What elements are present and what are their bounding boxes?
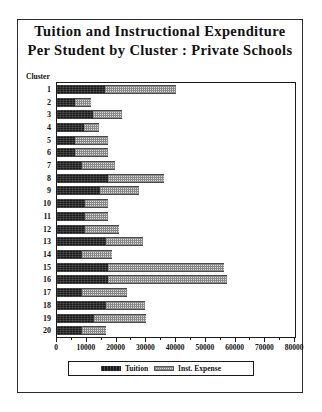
bar-segment-inst-expense bbox=[75, 98, 91, 107]
x-axis-tick-labels: 0100002000030000400005000060000700008000… bbox=[56, 343, 297, 355]
stacked-bar bbox=[57, 237, 295, 246]
bar-segment-inst-expense bbox=[75, 136, 108, 145]
y-tick-label: 14 bbox=[26, 248, 54, 261]
bar-segment-tuition bbox=[57, 123, 84, 132]
bar-segment-inst-expense bbox=[108, 275, 227, 284]
y-tick-label: 17 bbox=[26, 286, 54, 299]
y-tick-label: 9 bbox=[26, 185, 54, 198]
x-axis-ticks bbox=[56, 338, 297, 342]
bar-row bbox=[57, 235, 295, 248]
bar-segment-tuition bbox=[57, 174, 108, 183]
bar-segment-tuition bbox=[57, 136, 75, 145]
y-tick-label: 15 bbox=[26, 261, 54, 274]
bar-segment-tuition bbox=[57, 301, 106, 310]
bar-segment-inst-expense bbox=[85, 225, 119, 234]
bar-segment-inst-expense bbox=[100, 186, 139, 195]
x-tick-label: 10000 bbox=[76, 343, 95, 352]
stacked-bar bbox=[57, 250, 295, 259]
bar-row bbox=[57, 248, 295, 261]
bar-segment-inst-expense bbox=[82, 161, 115, 170]
bar-segment-tuition bbox=[57, 314, 94, 323]
y-tick-label: 19 bbox=[26, 312, 54, 325]
stacked-bar bbox=[57, 161, 295, 170]
stacked-bar bbox=[57, 186, 295, 195]
bar-segment-tuition bbox=[57, 288, 82, 297]
y-axis-caption: Cluster bbox=[26, 72, 50, 81]
y-tick-label: 8 bbox=[26, 172, 54, 185]
stacked-bar bbox=[57, 98, 295, 107]
x-tick-label: 50000 bbox=[195, 343, 214, 352]
legend-swatch-tuition bbox=[101, 366, 121, 371]
bar-row bbox=[57, 299, 295, 312]
bar-row bbox=[57, 121, 295, 134]
legend-swatch-inst-expense bbox=[154, 366, 174, 371]
x-tick-label: 0 bbox=[54, 343, 58, 352]
legend-label-inst-expense: Inst. Expense bbox=[178, 364, 221, 373]
x-tick-label: 60000 bbox=[225, 343, 244, 352]
bar-segment-tuition bbox=[57, 148, 75, 157]
bar-segment-inst-expense bbox=[85, 199, 107, 208]
stacked-bar bbox=[57, 288, 295, 297]
y-tick-label: 4 bbox=[26, 121, 54, 134]
bar-row bbox=[57, 261, 295, 274]
stacked-bar bbox=[57, 225, 295, 234]
bar-row bbox=[57, 185, 295, 198]
bar-row bbox=[57, 210, 295, 223]
bar-segment-tuition bbox=[57, 98, 75, 107]
bar-segment-tuition bbox=[57, 237, 106, 246]
bar-segment-tuition bbox=[57, 212, 85, 221]
x-tick-mark bbox=[264, 338, 265, 342]
chart-legend: Tuition Inst. Expense bbox=[68, 361, 254, 376]
y-tick-label: 18 bbox=[26, 299, 54, 312]
x-tick-mark bbox=[116, 338, 117, 342]
bar-segment-inst-expense bbox=[85, 212, 107, 221]
stacked-bar bbox=[57, 275, 295, 284]
x-tick-label: 70000 bbox=[255, 343, 274, 352]
bar-segment-inst-expense bbox=[106, 237, 143, 246]
stacked-bar bbox=[57, 148, 295, 157]
stacked-bar bbox=[57, 85, 295, 94]
bar-segment-tuition bbox=[57, 85, 105, 94]
stacked-bar bbox=[57, 263, 295, 272]
bar-row bbox=[57, 159, 295, 172]
bar-row bbox=[57, 172, 295, 185]
x-tick-mark bbox=[145, 338, 146, 342]
bar-segment-inst-expense bbox=[94, 314, 146, 323]
bar-rows bbox=[57, 83, 295, 337]
stacked-bar bbox=[57, 174, 295, 183]
bar-row bbox=[57, 96, 295, 109]
y-tick-label: 12 bbox=[26, 223, 54, 236]
stacked-bar bbox=[57, 314, 295, 323]
bar-segment-inst-expense bbox=[108, 174, 165, 183]
bar-row bbox=[57, 134, 295, 147]
stacked-bar bbox=[57, 136, 295, 145]
bar-segment-tuition bbox=[57, 326, 82, 335]
y-tick-label: 1 bbox=[26, 83, 54, 96]
y-tick-label: 5 bbox=[26, 134, 54, 147]
bar-segment-tuition bbox=[57, 110, 93, 119]
stacked-bar bbox=[57, 123, 295, 132]
chart-title-line-2: Per Student by Cluster : Private Schools bbox=[18, 41, 302, 60]
y-tick-label: 6 bbox=[26, 147, 54, 160]
bar-row bbox=[57, 197, 295, 210]
bar-segment-inst-expense bbox=[105, 85, 176, 94]
legend-label-tuition: Tuition bbox=[125, 364, 148, 373]
x-tick-mark-minor bbox=[279, 338, 280, 340]
stacked-bar bbox=[57, 212, 295, 221]
stacked-bar bbox=[57, 199, 295, 208]
bar-row bbox=[57, 108, 295, 121]
bar-segment-inst-expense bbox=[75, 148, 108, 157]
bar-row bbox=[57, 83, 295, 96]
x-tick-mark bbox=[175, 338, 176, 342]
x-tick-mark-minor bbox=[130, 338, 131, 340]
y-tick-label: 11 bbox=[26, 210, 54, 223]
y-tick-label: 10 bbox=[26, 197, 54, 210]
plot-area bbox=[56, 82, 296, 338]
stacked-bar bbox=[57, 326, 295, 335]
x-tick-mark bbox=[235, 338, 236, 342]
stacked-bar bbox=[57, 110, 295, 119]
chart-page: Tuition and Instructional Expenditure Pe… bbox=[0, 0, 322, 412]
y-axis-tick-labels: 1234567891011121314151617181920 bbox=[26, 83, 54, 337]
bar-segment-tuition bbox=[57, 275, 108, 284]
x-tick-mark-minor bbox=[249, 338, 250, 340]
